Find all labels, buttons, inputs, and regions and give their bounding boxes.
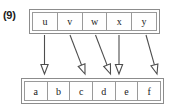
cell-label-a: a [34, 86, 38, 97]
arrow-shaft [70, 35, 82, 65]
cell-u: u [33, 13, 58, 30]
top-set-box: u v w x y [29, 9, 160, 34]
figure-container: (9) u v w x y a b [0, 0, 181, 109]
cell-v: v [58, 13, 83, 30]
arrow-shaft [96, 35, 108, 65]
figure-label: (9) [3, 9, 16, 21]
cell-a: a [25, 82, 48, 100]
cell-f: f [138, 82, 160, 100]
arrow-u-to-a [41, 35, 48, 74]
cell-label-c: c [79, 86, 83, 97]
cell-label-u: u [42, 16, 47, 27]
arrow-head [41, 65, 48, 75]
arrow-head [115, 65, 122, 75]
arrow-w-to-d [96, 35, 111, 74]
arrow-head [78, 64, 85, 74]
cell-label-v: v [67, 16, 72, 27]
cell-label-e: e [124, 86, 128, 97]
cell-x: x [107, 13, 132, 30]
cell-label-x: x [117, 16, 122, 27]
cell-label-y: y [142, 16, 147, 27]
cell-w: w [83, 13, 108, 30]
cell-e: e [116, 82, 139, 100]
cell-label-d: d [101, 86, 106, 97]
arrow-x-to-d [115, 35, 122, 74]
cell-label-b: b [56, 86, 61, 97]
cell-c: c [70, 82, 93, 100]
bottom-set-cells: a b c d e f [24, 81, 161, 101]
arrow-y-to-f [146, 35, 158, 74]
cell-label-w: w [91, 16, 98, 27]
arrow-head [104, 64, 111, 74]
cell-b: b [48, 82, 71, 100]
arrow-shaft [146, 35, 154, 65]
top-set-cells: u v w x y [32, 12, 157, 31]
cell-y: y [132, 13, 156, 30]
arrow-head [151, 64, 158, 74]
cell-d: d [93, 82, 116, 100]
bottom-set-box: a b c d e f [21, 78, 164, 104]
cell-label-f: f [148, 86, 151, 97]
arrow-v-to-c [70, 35, 85, 74]
